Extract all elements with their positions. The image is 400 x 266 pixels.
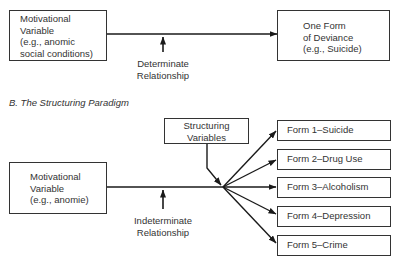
box-line: social conditions) [20,48,106,60]
box-line: (e.g., anomie) [30,194,106,206]
box-line: One Form [303,20,389,32]
motivational-variable-box-b: Motivational Variable (e.g., anomie) [9,162,107,214]
box-line: (e.g., Suicide) [303,43,389,55]
label-line: Indeterminate [128,215,198,227]
box-line: Structuring [165,120,248,132]
form-box-2: Form 2–Drug Use [277,149,391,170]
box-line: Motivational [20,13,106,25]
motivational-variable-box-a: Motivational Variable (e.g., anomic soci… [9,10,107,61]
determinate-relationship-label: Determinate Relationship [133,58,193,81]
section-b-title: B. The Structuring Paradigm [9,97,129,108]
box-line: (e.g., anomic [20,36,106,48]
label-line: Relationship [128,227,198,239]
form-box-1: Form 1–Suicide [277,120,391,141]
box-line: of Deviance [303,32,389,44]
deviance-box: One Form of Deviance (e.g., Suicide) [277,10,390,61]
box-line: Variable [20,25,106,37]
indeterminate-relationship-label: Indeterminate Relationship [128,215,198,238]
structuring-variables-box: Structuring Variables [164,118,249,144]
form-box-4: Form 4–Depression [277,206,391,227]
box-line: Variables [165,132,248,144]
box-line: Motivational [30,171,106,183]
fan-arrow-5 [223,187,276,243]
label-line: Determinate [133,58,193,70]
fan-arrow-4 [223,187,276,214]
structuring-connector-arrow [207,143,221,185]
box-line: Variable [30,183,106,195]
label-line: Relationship [133,70,193,82]
fan-arrow-2 [223,160,276,187]
form-box-3: Form 3–Alcoholism [277,177,391,198]
form-box-5: Form 5–Crime [277,235,391,256]
